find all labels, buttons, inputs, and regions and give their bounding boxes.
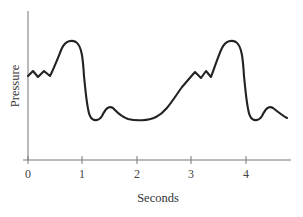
x-tick-label: 3: [188, 167, 194, 181]
x-tick-label: 0: [25, 167, 31, 181]
x-tick-label: 4: [243, 167, 249, 181]
pressure-chart: 0 1 2 3 4 Seconds Pressure: [0, 0, 303, 217]
x-tick-label: 1: [79, 167, 85, 181]
y-axis-label: Pressure: [8, 64, 22, 107]
pressure-line: [28, 41, 287, 120]
x-tick-label: 2: [134, 167, 140, 181]
x-axis-label: Seconds: [137, 191, 179, 205]
